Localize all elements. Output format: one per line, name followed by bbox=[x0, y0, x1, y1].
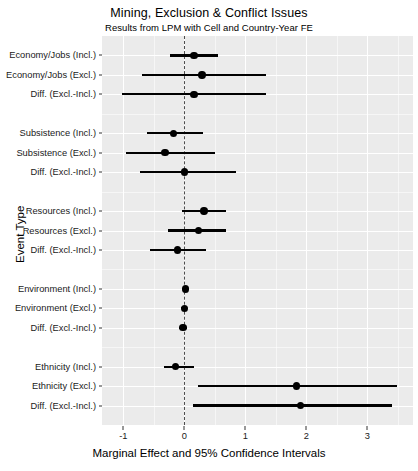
y-axis-tick-label: Ethnicity (Incl.) bbox=[35, 362, 96, 372]
y-axis-tick-mark bbox=[99, 386, 102, 387]
y-axis-tick-mark bbox=[99, 249, 102, 250]
y-axis-tick-label: Economy/Jobs (Incl.) bbox=[9, 50, 96, 60]
plot-panel bbox=[102, 36, 413, 425]
estimate-point bbox=[181, 168, 188, 175]
x-axis-tick-label: 3 bbox=[365, 431, 370, 441]
estimate-point bbox=[190, 91, 197, 98]
y-axis-tick-mark bbox=[99, 94, 102, 95]
y-axis-tick-mark bbox=[99, 327, 102, 328]
grid-line-vertical-minor bbox=[398, 36, 399, 425]
estimate-point bbox=[293, 382, 300, 389]
estimate-point bbox=[198, 71, 205, 78]
x-axis-tick-mark bbox=[184, 426, 185, 430]
grid-line-vertical-minor bbox=[337, 36, 338, 425]
chart-subtitle: Results from LPM with Cell and Country-Y… bbox=[0, 22, 418, 33]
estimate-point bbox=[161, 149, 168, 156]
y-axis-tick-label: Resources (Incl.) bbox=[26, 206, 96, 216]
y-axis-tick-mark bbox=[99, 211, 102, 212]
y-axis-tick-label: Environment (Excl.) bbox=[15, 303, 96, 313]
y-axis-tick-label: Environment (Incl.) bbox=[18, 284, 96, 294]
y-axis-tick-mark bbox=[99, 405, 102, 406]
y-axis-tick-mark bbox=[99, 172, 102, 173]
y-axis-tick-mark bbox=[99, 152, 102, 153]
estimate-point bbox=[179, 324, 186, 331]
estimate-point bbox=[200, 207, 207, 214]
x-axis-title: Marginal Effect and 95% Confidence Inter… bbox=[0, 447, 418, 459]
confidence-interval-bar bbox=[126, 152, 215, 154]
x-axis-tick-label: 2 bbox=[304, 431, 309, 441]
y-axis-tick-label: Diff. (Excl.-Incl.) bbox=[31, 323, 96, 333]
x-axis-tick-label: 1 bbox=[243, 431, 248, 441]
y-axis-tick-label: Diff. (Excl.-Incl.) bbox=[31, 89, 96, 99]
grid-line-vertical-minor bbox=[276, 36, 277, 425]
chart-title: Mining, Exclusion & Conflict Issues bbox=[0, 6, 418, 20]
x-axis-tick-mark bbox=[123, 426, 124, 430]
x-axis-tick-mark bbox=[306, 426, 307, 430]
y-axis-tick-mark bbox=[99, 288, 102, 289]
y-axis-tick-label: Subsistence (Incl.) bbox=[20, 128, 96, 138]
forest-plot: Mining, Exclusion & Conflict Issues Resu… bbox=[0, 0, 418, 471]
y-axis-tick-label: Diff. (Excl.-Incl.) bbox=[31, 401, 96, 411]
x-axis-tick-label: -1 bbox=[119, 431, 127, 441]
estimate-point bbox=[181, 305, 188, 312]
estimate-point bbox=[195, 227, 202, 234]
y-axis-tick-label: Subsistence (Excl.) bbox=[16, 148, 96, 158]
y-axis-tick-mark bbox=[99, 366, 102, 367]
y-axis-tick-mark bbox=[99, 74, 102, 75]
x-axis-tick-label: 0 bbox=[182, 431, 187, 441]
confidence-interval-bar bbox=[193, 404, 392, 406]
y-axis-tick-mark bbox=[99, 230, 102, 231]
y-axis-tick-label: Resources (Excl.) bbox=[23, 226, 96, 236]
y-axis-tick-label: Diff. (Excl.-Incl.) bbox=[31, 167, 96, 177]
y-axis-tick-label: Ethnicity (Excl.) bbox=[32, 381, 96, 391]
estimate-point bbox=[172, 363, 179, 370]
estimate-point bbox=[190, 52, 197, 59]
estimate-point bbox=[174, 246, 181, 253]
y-axis-tick-mark bbox=[99, 55, 102, 56]
grid-line-vertical bbox=[367, 36, 368, 425]
estimate-point bbox=[170, 130, 177, 137]
y-axis-tick-mark bbox=[99, 308, 102, 309]
grid-line-vertical bbox=[306, 36, 307, 425]
y-axis-title: Event Type bbox=[14, 205, 26, 262]
x-axis-tick-mark bbox=[367, 426, 368, 430]
estimate-point bbox=[182, 285, 189, 292]
x-axis-tick-mark bbox=[245, 426, 246, 430]
y-axis-tick-label: Diff. (Excl.-Incl.) bbox=[31, 245, 96, 255]
y-axis-tick-label: Economy/Jobs (Excl.) bbox=[6, 70, 96, 80]
estimate-point bbox=[297, 402, 304, 409]
y-axis-tick-mark bbox=[99, 133, 102, 134]
